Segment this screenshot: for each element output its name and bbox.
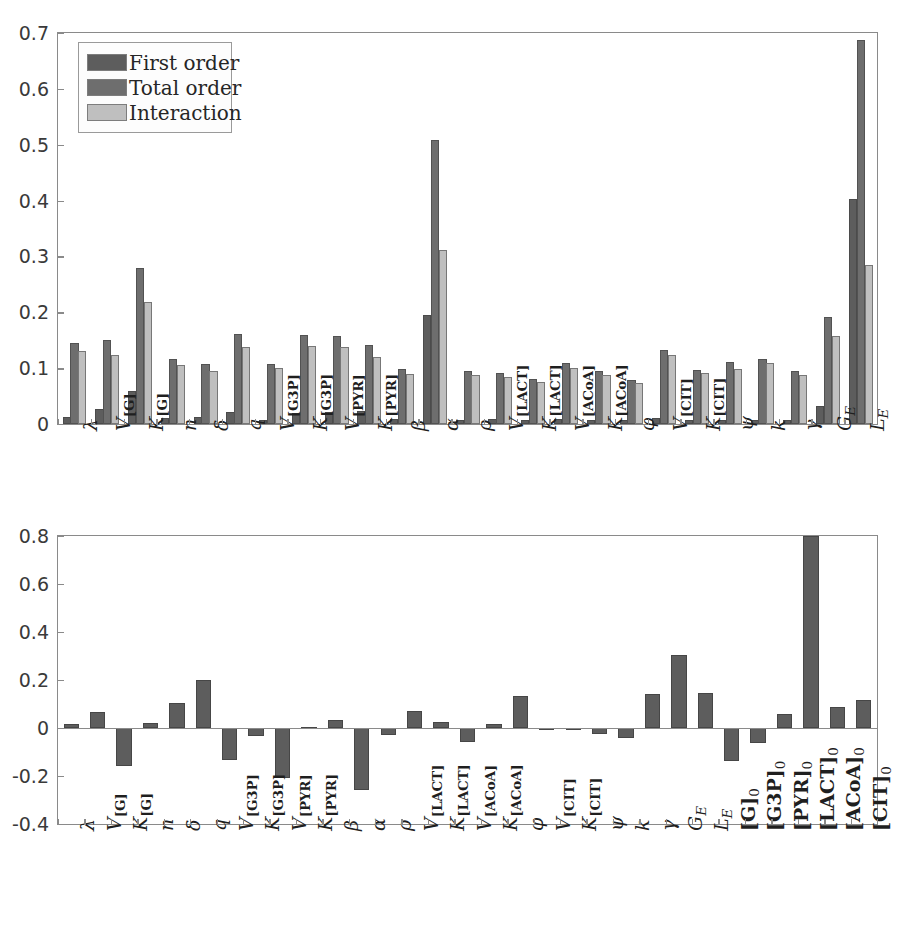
x-axis-label: GE	[686, 806, 708, 831]
x-axis-label: β	[342, 820, 361, 831]
x-tick-mark	[746, 419, 747, 425]
x-tick-mark	[680, 419, 681, 425]
x-axis-label: K[PYR]	[316, 774, 338, 831]
x-tick-mark	[451, 419, 452, 425]
x-tick-mark	[137, 819, 138, 825]
x-tick-mark	[779, 419, 780, 425]
x-tick-mark	[58, 819, 59, 825]
x-axis-label: V[G3P]	[278, 374, 300, 431]
x-tick-mark	[401, 819, 402, 825]
x-tick-mark	[320, 419, 321, 425]
x-tick-mark	[718, 819, 719, 825]
x-tick-mark	[877, 419, 878, 425]
x-axis-label: LE	[712, 809, 734, 831]
x-axis-label: K[ACoA]	[606, 365, 628, 431]
x-tick-mark	[745, 819, 746, 825]
x-tick-mark	[824, 819, 825, 825]
x-tick-mark	[296, 819, 297, 825]
x-tick-mark	[798, 819, 799, 825]
sobol-indices-panel: 00.10.20.30.40.50.60.7 First order Total…	[0, 0, 897, 520]
x-tick-mark	[811, 419, 812, 425]
x-tick-mark	[648, 419, 649, 425]
x-axis-label: V[G]	[105, 794, 127, 831]
x-tick-mark	[560, 819, 561, 825]
x-axis-label: φ	[527, 818, 546, 831]
x-tick-mark	[287, 419, 288, 425]
x-axis-label: LE	[868, 409, 890, 431]
x-tick-mark	[771, 819, 772, 825]
x-tick-mark	[255, 419, 256, 425]
x-axis-label: q	[210, 819, 229, 831]
x-axis-label: V[PYR]	[290, 774, 312, 831]
x-tick-mark	[164, 819, 165, 825]
x-tick-mark	[484, 419, 485, 425]
x-tick-mark	[156, 419, 157, 425]
x-tick-mark	[692, 819, 693, 825]
x-tick-mark	[91, 419, 92, 425]
x-axis-label: V[G]	[114, 394, 136, 431]
x-tick-mark	[84, 819, 85, 825]
x-axis-label: V[G3P]	[237, 774, 259, 831]
x-axis-label: [G3P]0	[765, 761, 787, 831]
x-axis-label: V[CIT]	[554, 778, 576, 831]
x-tick-mark	[517, 419, 518, 425]
x-tick-mark	[877, 819, 878, 825]
x-tick-mark	[111, 819, 112, 825]
x-tick-mark	[58, 419, 59, 425]
x-tick-mark	[353, 419, 354, 425]
x-tick-mark	[243, 819, 244, 825]
x-axis-label: GE	[835, 406, 857, 431]
x-tick-mark	[217, 819, 218, 825]
x-axis-label: k	[633, 819, 652, 831]
x-tick-mark	[613, 819, 614, 825]
x-tick-mark	[428, 819, 429, 825]
x-axis-label: K[ACoA]	[501, 765, 523, 831]
x-tick-mark	[615, 419, 616, 425]
x-axis-label: n	[157, 819, 176, 831]
x-tick-mark	[549, 419, 550, 425]
x-tick-mark	[713, 419, 714, 425]
x-tick-mark	[454, 819, 455, 825]
x-tick-mark	[322, 819, 323, 825]
x-axis-label: V[ACoA]	[475, 765, 497, 831]
x-tick-mark	[269, 819, 270, 825]
x-axis-label: [G]0	[739, 788, 761, 831]
x-tick-mark	[666, 819, 667, 825]
x-axis-label: λ	[78, 819, 97, 831]
x-axis-label: K[G]	[131, 793, 153, 831]
x-axis-label: δ	[184, 820, 203, 831]
x-tick-mark	[534, 819, 535, 825]
sobol-x-axis-labels: λV[G]K[G]nδqV[G3P]K[G3P]V[PYR]K[PYR]βαρV…	[0, 0, 897, 520]
x-tick-mark	[190, 819, 191, 825]
x-axis-label: [ACoA]0	[844, 747, 866, 831]
x-axis-label: [PYR]0	[792, 761, 814, 831]
x-tick-mark	[586, 819, 587, 825]
x-axis-label: K[G3P]	[311, 374, 333, 431]
x-tick-mark	[639, 819, 640, 825]
x-tick-mark	[349, 819, 350, 825]
x-tick-mark	[481, 819, 482, 825]
x-axis-label: K[CIT]	[580, 778, 602, 831]
zero-baseline	[58, 728, 877, 729]
x-axis-label: V[PYR]	[343, 374, 365, 431]
x-axis-label: γ	[659, 820, 678, 831]
x-tick-mark	[189, 419, 190, 425]
figure-root: 00.10.20.30.40.50.60.7 First order Total…	[0, 0, 897, 938]
x-axis-label: ψ	[607, 816, 626, 831]
x-axis-label: K[G3P]	[263, 774, 285, 831]
x-axis-label: K[PYR]	[376, 374, 398, 431]
x-axis-label: α	[369, 818, 388, 831]
x-tick-mark	[386, 419, 387, 425]
x-tick-mark	[582, 419, 583, 425]
regression-coefficients-panel: -0.4-0.200.20.40.60.8 λV[G]K[G]nδqV[G3P]…	[0, 520, 897, 938]
x-tick-mark	[507, 819, 508, 825]
x-axis-label: K[LACT]	[448, 764, 470, 831]
x-axis-label: V[ACoA]	[573, 365, 595, 431]
x-axis-label: V[LACT]	[507, 365, 529, 431]
x-axis-label: K[G]	[147, 393, 169, 431]
x-axis-label: V[LACT]	[422, 765, 444, 831]
x-axis-label: K[LACT]	[540, 364, 562, 431]
x-tick-mark	[222, 419, 223, 425]
x-tick-mark	[375, 819, 376, 825]
x-axis-label: ρ	[395, 820, 414, 831]
